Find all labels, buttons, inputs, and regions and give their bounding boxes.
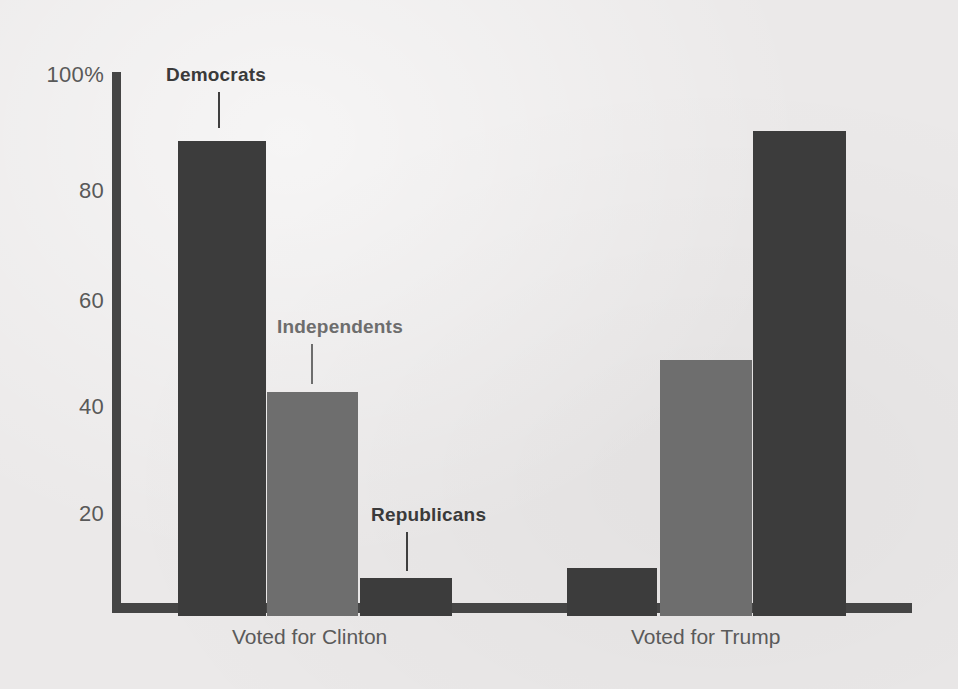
x-category-label-trump: Voted for Trump (631, 625, 780, 649)
bar-trump-republicans[interactable] (753, 131, 846, 616)
y-tick-label-20: 20 (79, 503, 104, 525)
bar-clinton-republicans[interactable] (360, 578, 452, 616)
leader-line-republicans (406, 532, 408, 571)
leader-line-democrats (218, 92, 220, 128)
leader-line-independents (311, 344, 313, 384)
bar-trump-independents[interactable] (660, 360, 752, 616)
y-tick-label-80: 80 (79, 180, 104, 202)
x-category-label-clinton: Voted for Clinton (232, 625, 387, 649)
plot-area (112, 72, 912, 616)
y-tick-label-60: 60 (79, 290, 104, 312)
y-tick-label-100: 100% (47, 64, 104, 86)
bar-group-voted-for-clinton (178, 84, 454, 616)
y-axis-tick-labels: 100% 80 60 40 20 (0, 0, 104, 689)
annotation-independents: Independents (277, 316, 403, 338)
annotation-republicans: Republicans (371, 504, 486, 526)
annotation-democrats: Democrats (166, 64, 266, 86)
chart-canvas: 100% 80 60 40 20 Democrats Independents … (0, 0, 958, 689)
bar-clinton-democrats[interactable] (178, 141, 266, 616)
bar-clinton-independents[interactable] (267, 392, 358, 616)
bar-trump-democrats[interactable] (567, 568, 657, 616)
bar-group-voted-for-trump (567, 84, 846, 616)
y-tick-label-40: 40 (79, 396, 104, 418)
